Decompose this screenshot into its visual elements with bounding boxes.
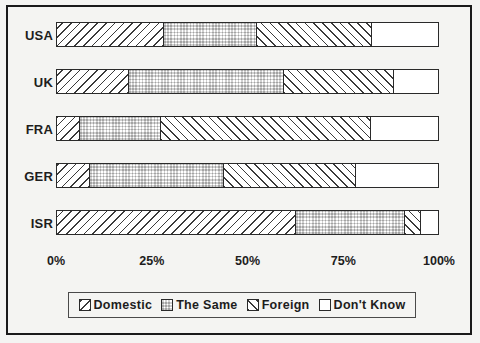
bar-segment-foreign — [404, 211, 420, 234]
legend-swatch-icon — [79, 299, 91, 311]
bar-segment-domestic — [57, 117, 79, 140]
stacked-bar — [56, 69, 439, 94]
bar-row-label: USA — [25, 27, 53, 42]
bar-segment-don-t-know — [371, 23, 438, 46]
legend-label: The Same — [176, 298, 237, 312]
x-axis: 0%25%50%75%100% — [56, 254, 439, 274]
x-tick-label: 50% — [235, 254, 260, 268]
bar-segment-domestic — [57, 164, 89, 187]
legend-label: Don't Know — [334, 298, 406, 312]
legend-swatch-icon — [161, 299, 173, 311]
legend-item: Foreign — [247, 298, 310, 312]
bar-segment-don-t-know — [393, 70, 438, 93]
bar-row: UK — [56, 69, 439, 94]
x-tick-label: 75% — [331, 254, 356, 268]
bar-segment-don-t-know — [420, 211, 438, 234]
chart-figure: USAUKFRAGERISR 0%25%50%75%100% DomesticT… — [0, 0, 480, 343]
legend-item: Don't Know — [319, 298, 406, 312]
bar-segment-the-same — [163, 23, 256, 46]
bar-row: USA — [56, 22, 439, 47]
bar-segment-foreign — [256, 23, 371, 46]
bar-segment-the-same — [79, 117, 161, 140]
bar-row-label: UK — [34, 74, 53, 89]
legend-label: Domestic — [94, 298, 153, 312]
x-tick-label: 0% — [47, 254, 65, 268]
plot-area: USAUKFRAGERISR — [56, 22, 439, 250]
legend-swatch-icon — [319, 299, 331, 311]
stacked-bar — [56, 210, 439, 235]
bar-segment-the-same — [128, 70, 283, 93]
bar-segment-foreign — [160, 117, 370, 140]
stacked-bar — [56, 22, 439, 47]
bar-row: GER — [56, 163, 439, 188]
stacked-bar — [56, 163, 439, 188]
bar-segment-don-t-know — [355, 164, 438, 187]
chart-legend: DomesticThe SameForeignDon't Know — [68, 292, 416, 318]
bar-segment-domestic — [57, 23, 163, 46]
x-tick-label: 100% — [423, 254, 455, 268]
x-tick-label: 25% — [139, 254, 164, 268]
bar-segment-the-same — [89, 164, 223, 187]
legend-label: Foreign — [262, 298, 310, 312]
stacked-bar — [56, 116, 439, 141]
bar-row: FRA — [56, 116, 439, 141]
bar-segment-don-t-know — [370, 117, 438, 140]
bar-row-label: GER — [24, 168, 53, 183]
bar-row-label: ISR — [31, 215, 53, 230]
legend-swatch-icon — [247, 299, 259, 311]
bar-segment-foreign — [283, 70, 394, 93]
legend-item: Domestic — [79, 298, 153, 312]
bar-segment-domestic — [57, 70, 128, 93]
bar-segment-foreign — [223, 164, 355, 187]
bar-row-label: FRA — [26, 121, 53, 136]
bar-row: ISR — [56, 210, 439, 235]
bar-segment-domestic — [57, 211, 295, 234]
legend-item: The Same — [161, 298, 237, 312]
bar-segment-the-same — [295, 211, 404, 234]
